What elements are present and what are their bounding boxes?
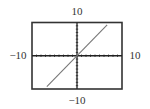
ymin-label: −10 <box>68 94 86 106</box>
xmin-label: −10 <box>9 49 27 61</box>
graph-window: 10 −10 −10 10 <box>0 0 150 109</box>
ymax-label: 10 <box>72 5 84 17</box>
xmax-label: 10 <box>130 49 142 61</box>
